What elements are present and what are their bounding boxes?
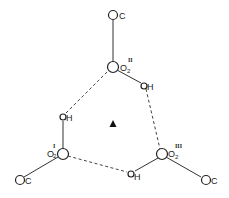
atom-c-left [16, 176, 25, 185]
label-o2-ii: O [120, 63, 127, 73]
bond-o2-iii-h [135, 158, 158, 171]
label-o2-iii-sup: III [175, 143, 183, 149]
atom-c-right [202, 176, 211, 185]
label-c-right: C [211, 176, 218, 186]
atom-o2-iii [157, 149, 168, 160]
label-c-left: C [25, 176, 32, 186]
hbond-h-left-o2-ii [66, 71, 108, 113]
label-h-left: H [66, 113, 73, 123]
bond-o2-iii-c [166, 157, 201, 177]
label-o2-iii: O [168, 149, 175, 159]
label-c-top: C [119, 11, 126, 21]
bond-o2-i-c [24, 157, 58, 177]
label-o2-ii-sub: 2 [127, 68, 131, 74]
atom-c-top [109, 11, 118, 20]
threefold-axis-triangle-icon [110, 120, 117, 127]
hbond-h-top-o2-iii [146, 89, 160, 149]
label-o2-ii-sup: II [128, 57, 133, 63]
hbond-h-bottom-o2-i [68, 156, 127, 172]
atom-o2-ii [108, 62, 119, 73]
label-h-bottom: H [134, 172, 141, 182]
molecular-diagram: C O 2 II H H O 2 I C O 2 III C H [0, 0, 229, 198]
label-o2-iii-sub: 2 [175, 154, 179, 160]
atom-o2-i [58, 149, 69, 160]
label-o2-i-sup: I [53, 143, 56, 149]
label-h-top: H [147, 82, 154, 92]
